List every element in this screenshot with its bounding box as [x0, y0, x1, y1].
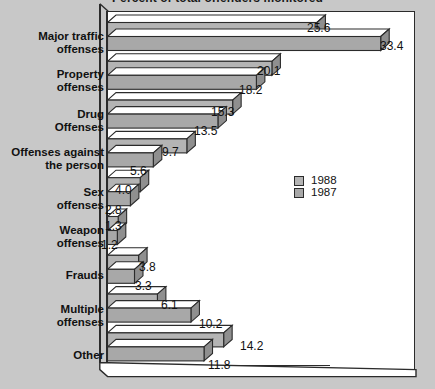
value-label-1987-frauds: 3.3	[135, 280, 152, 292]
category-label-sex-offenses: Sex offenses	[0, 186, 104, 211]
category-label-weapon-offenses: Weapon offenses	[0, 224, 104, 249]
value-label-1988-offenses-against-person: 9.7	[162, 146, 179, 158]
value-label-1988-property-offenses: 20.1	[257, 65, 280, 77]
chart-container: Percent of total offenders monitored Maj…	[0, 0, 435, 389]
value-label-1988-major-traffic-offenses: 25.6	[307, 22, 330, 34]
value-label-1987-drug-offenses: 13.5	[194, 125, 217, 137]
value-label-1988-multiple-offenses: 6.1	[161, 299, 178, 311]
category-label-property-offenses: Property offenses	[0, 68, 104, 93]
category-label-drug-offenses: Drug Offenses	[0, 108, 104, 133]
value-label-1987-major-traffic-offenses: 33.4	[380, 40, 403, 52]
legend-item-1988: 1988	[294, 175, 337, 186]
category-label-frauds: Frauds	[0, 269, 104, 282]
value-label-1988-other: 14.2	[240, 340, 263, 352]
value-label-1988-weapon-offenses: 1.3	[105, 220, 122, 232]
legend-item-1987: 1987	[294, 187, 337, 198]
legend: 1988 1987	[294, 175, 337, 199]
value-label-1987-weapon-offenses: 1.2	[101, 239, 118, 251]
value-label-1987-offenses-against-person: 5.6	[130, 165, 147, 177]
category-label-multiple-offenses: Multiple offenses	[0, 303, 104, 328]
value-label-1987-property-offenses: 18.2	[239, 84, 262, 96]
value-label-1988-sex-offenses: 4.0	[115, 184, 132, 196]
legend-label-1988: 1988	[311, 175, 337, 186]
legend-swatch-1987	[294, 188, 304, 198]
legend-label-1987: 1987	[311, 187, 337, 198]
category-label-major-traffic-offenses: Major traffic offenses	[0, 30, 104, 55]
value-label-1988-frauds: 3.8	[139, 261, 156, 273]
value-label-1988-drug-offenses: 15.3	[211, 106, 234, 118]
category-label-offenses-against-person: Offenses against the person	[0, 146, 104, 171]
legend-swatch-1988	[294, 176, 304, 186]
value-label-1987-multiple-offenses: 10.2	[199, 318, 222, 330]
category-label-other: Other	[0, 349, 104, 362]
value-label-1987-other: 11.8	[208, 359, 230, 371]
value-label-1987-sex-offenses: 2.8	[105, 204, 122, 216]
